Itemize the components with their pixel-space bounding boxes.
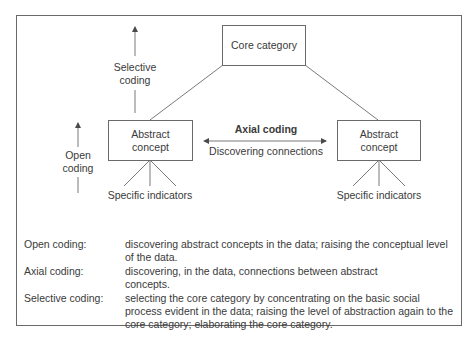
abstract-concept-left-box: Abstract concept bbox=[108, 120, 193, 161]
open-coding-label: Open coding bbox=[53, 149, 103, 175]
abstract-concept-right-box: Abstract concept bbox=[337, 120, 421, 161]
definition-axial-coding: Axial coding: discovering, in the data, … bbox=[24, 265, 454, 292]
specific-indicators-left: Specific indicators bbox=[100, 189, 200, 202]
core-to-right-line bbox=[305, 65, 378, 120]
specific-indicators-right: Specific indicators bbox=[329, 189, 429, 202]
definition-selective-coding: Selective coding: selecting the core cat… bbox=[24, 292, 454, 332]
core-category-box: Core category bbox=[222, 25, 306, 66]
selective-coding-label: Selective coding bbox=[105, 61, 165, 87]
axial-coding-subtitle: Discovering connections bbox=[200, 145, 332, 158]
abstract-concept-left-label: Abstract concept bbox=[126, 128, 176, 154]
definitions-list: Open coding: discovering abstract concep… bbox=[24, 238, 454, 332]
core-category-label: Core category bbox=[231, 39, 297, 52]
definition-open-coding: Open coding: discovering abstract concep… bbox=[24, 238, 454, 265]
abstract-concept-right-label: Abstract concept bbox=[354, 128, 404, 154]
axial-coding-title: Axial coding bbox=[205, 123, 327, 136]
